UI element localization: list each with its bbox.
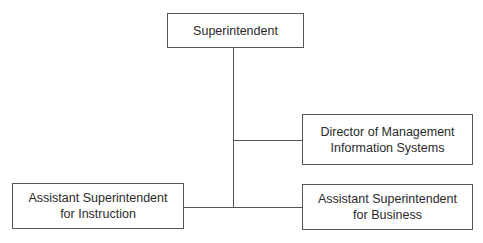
superintendent-label: Superintendent [193, 23, 278, 39]
asst-supt-business-line2: for Business [353, 207, 422, 223]
asst-supt-business-box: Assistant Superintendent for Business [302, 184, 473, 230]
director-mis-box: Director of Management Information Syste… [302, 114, 473, 165]
staff-connector [233, 140, 302, 141]
bottom-connector [183, 207, 302, 208]
superintendent-box: Superintendent [167, 13, 304, 48]
asst-supt-instruction-line2: for Instruction [60, 206, 136, 222]
asst-supt-instruction-box: Assistant Superintendent for Instruction [12, 183, 184, 229]
asst-supt-business-line1: Assistant Superintendent [318, 191, 457, 207]
vertical-connector [233, 48, 234, 207]
director-mis-line1: Director of Management [320, 124, 454, 140]
asst-supt-instruction-line1: Assistant Superintendent [29, 190, 168, 206]
director-mis-line2: Information Systems [331, 140, 445, 156]
